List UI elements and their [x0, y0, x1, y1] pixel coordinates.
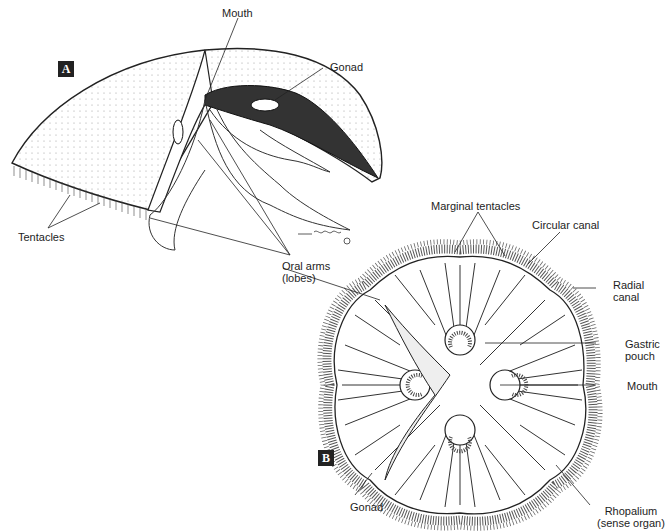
label-marginal-tentacles: Marginal tentacles — [431, 200, 520, 212]
label-mouth-b: Mouth — [627, 380, 658, 392]
label-radial-canal: Radial canal — [613, 279, 644, 303]
panel-a-badge: A — [58, 61, 74, 77]
label-mouth-a: Mouth — [222, 7, 253, 19]
label-gastric-pouch-line1: Gastric — [625, 338, 660, 350]
label-gonad-a: Gonad — [330, 61, 363, 73]
label-rhopalium: Rhopalium (sense organ) — [597, 505, 665, 529]
label-gastric-pouch-line2: pouch — [625, 350, 660, 362]
label-radial-canal-line1: Radial — [613, 279, 644, 291]
jellyfish-anatomy-diagram: A B Mouth Gonad Tentacles Oral arms (lob… — [0, 0, 667, 532]
label-circular-canal: Circular canal — [532, 219, 599, 231]
label-gastric-pouch: Gastric pouch — [625, 338, 660, 362]
label-oral-arms: Oral arms (lobes) — [282, 260, 330, 284]
panel-b-badge: B — [318, 450, 334, 466]
label-rhopalium-line1: Rhopalium — [597, 505, 665, 517]
label-oral-arms-line1: Oral arms — [282, 260, 330, 272]
label-tentacles: Tentacles — [18, 231, 64, 243]
label-oral-arms-line2: (lobes) — [282, 272, 330, 284]
label-gonad-b: Gonad — [350, 501, 383, 513]
label-radial-canal-line2: canal — [613, 291, 644, 303]
label-rhopalium-line2: (sense organ) — [597, 517, 665, 529]
